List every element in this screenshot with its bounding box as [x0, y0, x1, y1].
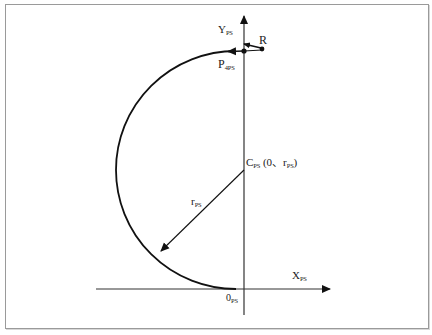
y-axis-label: YPS — [218, 24, 233, 37]
point-p4-label: P4PS — [218, 58, 235, 72]
circular-arc — [116, 51, 236, 289]
radius-arrow — [161, 170, 244, 251]
point-p4 — [241, 48, 246, 53]
radius-label: rPS — [191, 196, 202, 209]
origin-label: 0PS — [226, 293, 238, 305]
point-r-label: R — [259, 34, 267, 46]
center-label: CPS (0、rPS) — [246, 157, 297, 170]
diagram-canvas — [0, 0, 432, 335]
x-axis-label: XPS — [292, 270, 307, 283]
approach-line — [244, 50, 262, 51]
